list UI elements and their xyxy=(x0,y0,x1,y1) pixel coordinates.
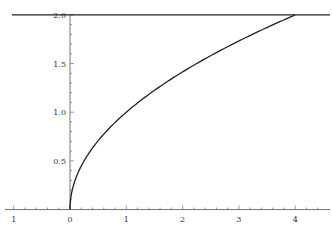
y-tick-label: 0.5 xyxy=(53,157,66,166)
x-tick-label: 2 xyxy=(180,215,185,224)
y-tick-label: 1.5 xyxy=(53,60,66,69)
sqrt-curve xyxy=(70,15,295,210)
x-tick-label: 3 xyxy=(236,215,241,224)
x-axis: 101234 xyxy=(5,206,330,224)
chart-plot: 101234 0.51.01.52.0 xyxy=(0,0,332,228)
y-axis: 0.51.01.52.0 xyxy=(53,11,74,210)
x-tick-label: 0 xyxy=(67,215,72,224)
y-tick-label: 1.0 xyxy=(53,108,66,117)
x-tick-label: 4 xyxy=(293,215,298,224)
x-tick-label: 1 xyxy=(11,215,16,224)
x-tick-label: 1 xyxy=(124,215,129,224)
